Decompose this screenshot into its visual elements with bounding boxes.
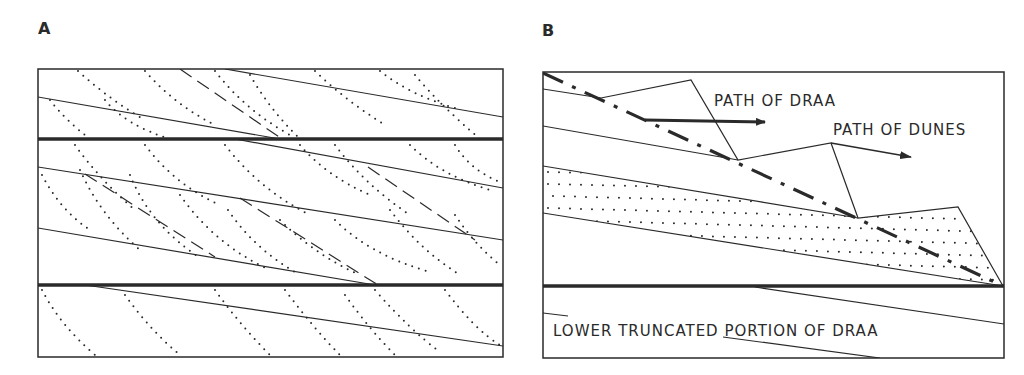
dune-path-zigzag bbox=[601, 80, 1003, 286]
sloping-bounding-surfaces bbox=[38, 69, 503, 346]
diagram-canvas: PATH OF DRAA PATH OF DUNES LOWER TRUNCAT… bbox=[0, 0, 1024, 375]
dune-path-dashes bbox=[85, 69, 475, 285]
lower-truncated-label: LOWER TRUNCATED PORTION OF DRAA bbox=[553, 322, 879, 340]
dune-deposit-dots bbox=[548, 172, 1000, 280]
panel-a bbox=[38, 69, 503, 357]
path-of-dunes-label: PATH OF DUNES bbox=[833, 121, 966, 139]
panel-b-frame bbox=[543, 72, 1004, 358]
panel-a-frame bbox=[38, 69, 503, 357]
path-of-draa-arrow bbox=[645, 120, 765, 122]
panel-b: PATH OF DRAA PATH OF DUNES LOWER TRUNCAT… bbox=[543, 72, 1004, 358]
path-of-draa-label: PATH OF DRAA bbox=[714, 92, 836, 110]
path-of-dunes-arrow bbox=[831, 143, 911, 157]
horizontal-bounding-surfaces bbox=[38, 139, 503, 285]
